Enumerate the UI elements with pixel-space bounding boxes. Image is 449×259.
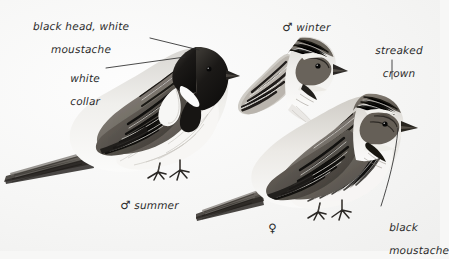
figure-male-summer — [4, 47, 240, 185]
annotation-line-2: crown — [383, 68, 416, 80]
leader-black-head-white-moustache — [150, 38, 199, 50]
caption-female: ♀ — [254, 211, 277, 247]
annotation-line-2: moustache — [389, 245, 449, 257]
annotation-line-1: black head, white — [33, 21, 129, 33]
annotation-line-1: streaked — [375, 45, 423, 57]
caption-text: winter — [293, 22, 331, 34]
caption-text: summer — [131, 200, 179, 212]
caption-male-winter: ♂ winter — [268, 10, 330, 46]
annotation-line-1: white — [70, 73, 100, 85]
annotation-line-2: collar — [70, 96, 100, 108]
annotation-black-head-white-moustache: black head, white moustache — [10, 10, 138, 68]
annotation-black-moustache: black moustache — [375, 211, 449, 259]
figure-female — [196, 94, 418, 221]
annotation-streaked-crown: streaked crown — [352, 34, 432, 92]
annotation-line-1: black — [389, 222, 418, 234]
female-symbol: ♀ — [268, 221, 277, 235]
annotation-white-collar: white collar — [56, 62, 100, 120]
male-symbol: ♂ — [282, 20, 293, 34]
caption-male-summer: ♂ summer — [106, 188, 179, 224]
male-symbol: ♂ — [120, 198, 131, 212]
annotation-line-2: moustache — [51, 44, 111, 56]
